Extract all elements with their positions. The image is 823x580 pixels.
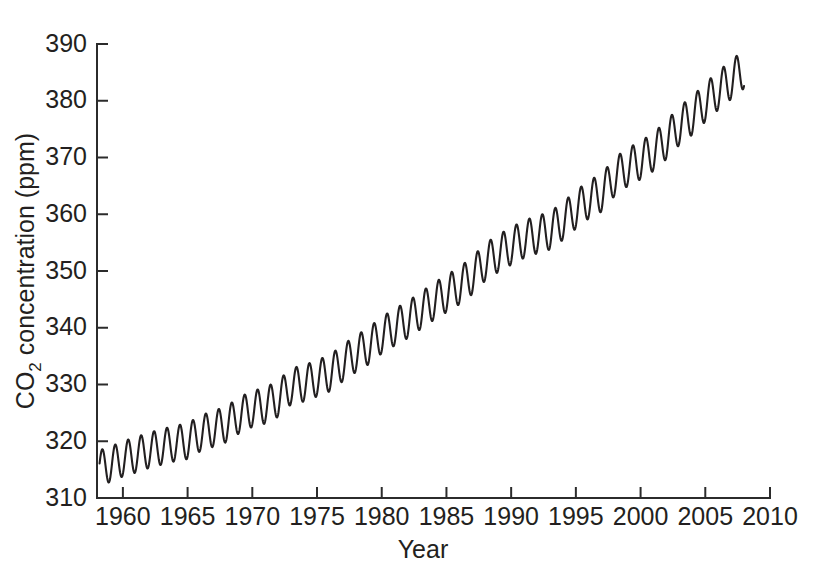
x-axis-tick-label: 2005 [677,502,733,530]
y-axis-tick-label: 310 [45,483,87,511]
y-axis-tick-label: 380 [45,85,87,113]
x-axis-tick-label: 2000 [613,502,669,530]
y-axis-tick-label: 350 [45,256,87,284]
x-axis-tick-label: 1960 [95,502,151,530]
x-axis-tick-label: 1980 [354,502,410,530]
y-axis-tick-label: 340 [45,312,87,340]
x-axis-title: Year [398,535,449,563]
y-axis-tick-label: 360 [45,199,87,227]
x-axis-tick-label: 1995 [548,502,604,530]
y-axis-tick-label: 320 [45,426,87,454]
x-axis-tick-label: 1985 [419,502,475,530]
y-axis-title-rest: concentration (ppm) [11,133,39,362]
x-axis-tick-label: 1970 [224,502,280,530]
x-axis-tick-label: 1975 [289,502,345,530]
y-axis-tick-labels: 310320330340350360370380390 [45,29,87,511]
y-axis-tick-label: 370 [45,142,87,170]
x-axis-tick-label: 1990 [483,502,539,530]
x-axis-tick-label: 1965 [160,502,216,530]
y-axis-title-main: CO [11,372,39,410]
x-axis-tick-labels: 1960196519701975198019851990199520002005… [95,502,798,530]
chart-canvas: 310320330340350360370380390 196019651970… [0,0,823,580]
x-axis-tick-label: 2010 [742,502,798,530]
co2-concentration-figure: 310320330340350360370380390 196019651970… [0,0,823,580]
y-axis-tick-label: 330 [45,369,87,397]
y-axis-tick-label: 390 [45,29,87,57]
y-axis-title-subscript: 2 [26,362,45,371]
